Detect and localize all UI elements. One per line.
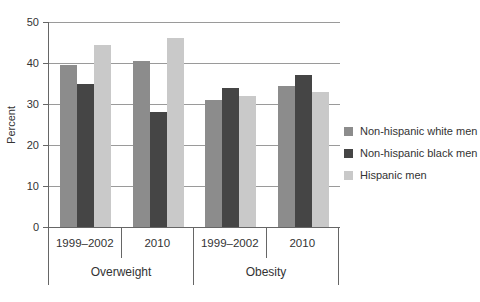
y-tick-label: 30 [27, 97, 39, 111]
bar-groups [49, 22, 340, 227]
period-label: 1999–2002 [49, 228, 122, 258]
category-label-row: OverweightObesity [48, 258, 339, 285]
bar [167, 38, 184, 227]
period-label-row: 1999–200220101999–20022010 [48, 228, 339, 258]
category-label: Obesity [194, 258, 339, 285]
y-tick-label: 50 [27, 15, 39, 29]
bar [150, 112, 167, 227]
legend-entry: Non-hispanic white men [344, 120, 477, 142]
bar-group [267, 22, 340, 227]
period-label: 1999–2002 [194, 228, 267, 258]
bar [295, 75, 312, 227]
bar [222, 88, 239, 227]
bar [94, 45, 111, 227]
bar [205, 100, 222, 227]
bar-group [49, 22, 122, 227]
legend-label: Hispanic men [360, 169, 427, 181]
bar [77, 84, 94, 228]
legend-entry: Non-hispanic black men [344, 142, 477, 164]
legend-swatch-icon [344, 127, 353, 136]
legend-label: Non-hispanic black men [360, 147, 477, 159]
legend-swatch-icon [344, 149, 353, 158]
period-label: 2010 [122, 228, 195, 258]
legend-entry: Hispanic men [344, 164, 477, 186]
legend-swatch-icon [344, 171, 353, 180]
category-label: Overweight [49, 258, 194, 285]
legend-label: Non-hispanic white men [360, 125, 477, 137]
bar [60, 65, 77, 227]
bar [239, 96, 256, 227]
y-tick-label: 40 [27, 56, 39, 70]
bar-group [122, 22, 195, 227]
bar [278, 86, 295, 227]
y-axis: 01020304050 [0, 22, 48, 227]
legend: Non-hispanic white menNon-hispanic black… [344, 120, 477, 186]
y-tick-label: 20 [27, 138, 39, 152]
bar-group [195, 22, 268, 227]
y-tick-label: 0 [33, 220, 39, 234]
period-label: 2010 [267, 228, 340, 258]
bar [312, 92, 329, 227]
plot-area [48, 22, 340, 228]
grouped-bar-chart-figure: Percent 01020304050 1999–200220101999–20… [0, 0, 480, 302]
y-tick-label: 10 [27, 179, 39, 193]
bar [133, 61, 150, 227]
